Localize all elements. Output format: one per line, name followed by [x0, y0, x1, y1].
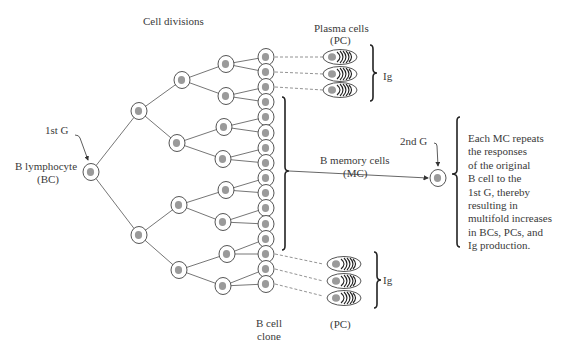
b-cell-clone-column — [258, 49, 274, 293]
description-line: in BCs, PCs, and — [468, 226, 552, 239]
b-cell-clone-label-2: clone — [257, 330, 281, 343]
description-line: 1st G, thereby — [468, 186, 552, 199]
division-cells — [131, 56, 235, 295]
second-g-arrow — [434, 143, 438, 166]
description-line: Ig production. — [468, 239, 552, 252]
b-memory-cells-label: B memory cells — [320, 154, 390, 167]
description-line: Each MC repeats — [468, 132, 552, 145]
second-g-label: 2nd G — [400, 135, 427, 148]
description-line: multifold increases — [468, 212, 552, 225]
pc-bottom-label: (PC) — [330, 318, 351, 331]
description-line: the responses — [468, 145, 552, 158]
plasma-cells-top — [323, 50, 357, 98]
division-lines — [91, 57, 266, 286]
ig-label-bottom: Ig — [383, 274, 392, 287]
first-g-label: 1st G — [45, 124, 69, 137]
b-lymphocyte-label: B lymphocyte — [15, 160, 77, 173]
dashed-connectors — [275, 57, 323, 296]
memory-cell-description: Each MC repeats the responses of the ori… — [468, 132, 552, 253]
ig-label-top: Ig — [383, 70, 392, 83]
description-line: B cell to the — [468, 172, 552, 185]
cell-divisions-label: Cell divisions — [143, 15, 204, 28]
b-lymphocyte-cell — [83, 164, 99, 181]
first-g-arrow — [75, 135, 88, 160]
plasma-cells-abbr: (PC) — [330, 34, 351, 47]
description-line: resulting in — [468, 199, 552, 212]
memory-cell — [430, 170, 446, 187]
b-memory-cells-abbr: (MC) — [343, 167, 367, 180]
plasma-cells-bottom — [327, 257, 361, 306]
b-lymphocyte-abbr: (BC) — [37, 173, 59, 186]
b-cell-clone-label-1: B cell — [256, 317, 282, 330]
description-line: of the original — [468, 159, 552, 172]
